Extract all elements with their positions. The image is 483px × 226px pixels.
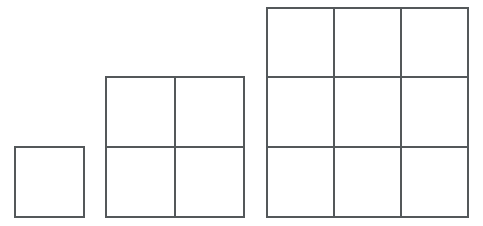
term-2-grid: [106, 77, 244, 217]
term-1-outer-rect: [15, 147, 84, 217]
squares-pattern-svg: Growing square grids pattern: [0, 0, 483, 226]
term-1-grid: [15, 147, 84, 217]
term-3-grid: [267, 8, 468, 217]
term-3-outer-rect: [267, 8, 468, 217]
figure-canvas: Growing square grids pattern: [0, 0, 483, 226]
